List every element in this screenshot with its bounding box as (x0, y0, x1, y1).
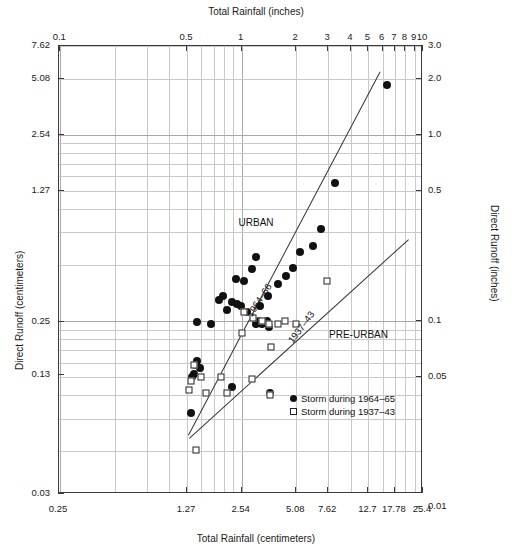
data-point (317, 225, 325, 233)
axis-tick-label: 7.62 (32, 39, 51, 50)
legend-label-1937-43: Storm during 1937–43 (301, 405, 395, 418)
data-point (258, 317, 265, 324)
data-point (296, 248, 304, 256)
axis-tick-label: 0.1 (53, 31, 66, 42)
legend-item-1964-65: Storm during 1964–65 (290, 392, 395, 405)
axis-tick-label: 0.03 (32, 487, 51, 498)
axis-tick-label: 5 (365, 31, 370, 42)
axis-tick-label: 0.01 (428, 500, 447, 511)
data-point (203, 389, 210, 396)
tick-mark (58, 134, 64, 135)
tick-mark (350, 45, 351, 51)
data-point (383, 81, 391, 89)
left-axis-title: Direct Runoff (centimeters) (14, 251, 25, 370)
rainfall-runoff-chart: Total Rainfall (inches) Total Rainfall (… (0, 0, 512, 558)
data-point (217, 373, 224, 380)
tick-mark (416, 190, 422, 191)
axis-tick-label: 0.25 (49, 503, 68, 514)
tick-mark (416, 45, 422, 46)
tick-mark (58, 374, 64, 375)
tick-mark (58, 321, 64, 322)
tick-mark (327, 487, 328, 493)
axis-tick-label: 8 (402, 31, 407, 42)
data-point (282, 272, 290, 280)
data-point (223, 306, 231, 314)
tick-mark (416, 320, 422, 321)
axis-tick-label: 0.13 (32, 368, 51, 379)
tick-mark (58, 45, 64, 46)
data-point (266, 321, 273, 328)
data-point (185, 387, 192, 394)
tick-mark (186, 45, 187, 51)
data-point (281, 317, 288, 324)
tick-mark (295, 487, 296, 493)
axis-tick-label: 17.78 (382, 503, 406, 514)
bottom-axis-title: Total Rainfall (centimeters) (0, 533, 512, 544)
axis-tick-label: 9 (411, 31, 416, 42)
data-point (190, 361, 197, 368)
tick-mark (416, 506, 422, 507)
axis-tick-label: 3.0 (428, 39, 441, 50)
tick-mark (416, 134, 422, 135)
axis-tick-label: 1.0 (428, 128, 441, 139)
tick-mark (382, 45, 383, 51)
axis-tick-label: 12.7 (358, 503, 377, 514)
axis-tick-label: 0.25 (32, 315, 51, 326)
data-point (248, 265, 256, 273)
axis-tick-label: 2.54 (32, 128, 51, 139)
data-point (309, 242, 317, 250)
trend-line (188, 72, 381, 436)
axis-tick-label: 1.27 (32, 184, 51, 195)
tick-mark (367, 45, 368, 51)
tick-mark (186, 487, 187, 493)
axis-tick-label: 3 (325, 31, 330, 42)
data-point (215, 296, 223, 304)
data-point (252, 253, 260, 261)
tick-mark (58, 190, 64, 191)
tick-mark (416, 376, 422, 377)
legend-label-1964-65: Storm during 1964–65 (301, 392, 395, 405)
tick-mark (241, 45, 242, 51)
tick-mark (422, 45, 423, 51)
data-point (232, 275, 240, 283)
data-point (207, 320, 215, 328)
data-point (331, 179, 339, 187)
filled-circle-icon (290, 395, 297, 402)
axis-tick-label: 5.08 (286, 503, 305, 514)
right-axis-title: Direct Runoff (inches) (489, 205, 500, 302)
data-point (275, 321, 282, 328)
data-point (249, 375, 256, 382)
data-point (198, 373, 205, 380)
axis-tick-label: 0.05 (428, 370, 447, 381)
tick-mark (394, 487, 395, 493)
tick-mark (367, 487, 368, 493)
legend: Storm during 1964–65 Storm during 1937–4… (290, 392, 395, 418)
tick-mark (414, 45, 415, 51)
axis-tick-label: 0.1 (428, 314, 441, 325)
data-point (274, 280, 282, 288)
data-point (324, 278, 331, 285)
axis-tick-label: 6 (379, 31, 384, 42)
data-point (240, 277, 248, 285)
tick-mark (422, 487, 423, 493)
tick-mark (241, 487, 242, 493)
tick-mark (58, 493, 64, 494)
data-point (289, 264, 297, 272)
data-point (187, 377, 194, 384)
data-point (268, 343, 275, 350)
data-point (187, 409, 195, 417)
open-square-icon (290, 408, 297, 415)
axis-tick-label: 2 (293, 31, 298, 42)
data-point (223, 389, 230, 396)
axis-tick-label: 1 (238, 31, 243, 42)
data-point (193, 318, 201, 326)
legend-item-1937-43: Storm during 1937–43 (290, 405, 395, 418)
axis-tick-label: 2.54 (231, 503, 250, 514)
axis-tick-label: 5.08 (32, 72, 51, 83)
axis-tick-label: 4 (347, 31, 352, 42)
data-point (238, 329, 245, 336)
axis-tick-label: 10 (417, 31, 428, 42)
axis-tick-label: 2.0 (428, 72, 441, 83)
tick-mark (58, 78, 64, 79)
top-axis-title: Total Rainfall (inches) (0, 6, 512, 17)
